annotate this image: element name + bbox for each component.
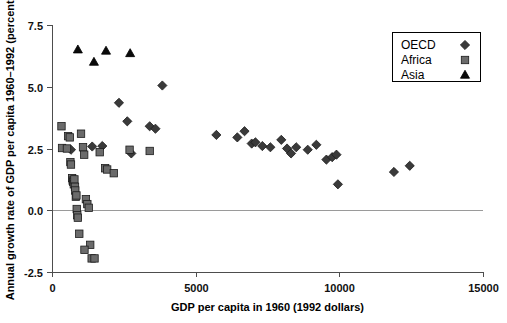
data-point-africa bbox=[74, 214, 81, 221]
data-point-africa bbox=[96, 149, 103, 156]
data-point-oecd bbox=[389, 167, 398, 176]
data-point-oecd bbox=[277, 135, 286, 144]
data-point-africa bbox=[63, 145, 70, 152]
data-point-oecd bbox=[114, 98, 123, 107]
x-tick-label: 15000 bbox=[468, 282, 499, 294]
data-point-asia bbox=[89, 57, 98, 65]
data-point-oecd bbox=[312, 140, 321, 149]
data-point-africa bbox=[66, 134, 73, 141]
data-point-africa bbox=[126, 146, 133, 153]
y-tick-label: 2.5 bbox=[28, 144, 43, 156]
x-tick-label: 10000 bbox=[324, 282, 355, 294]
data-point-oecd bbox=[158, 81, 167, 90]
square-icon bbox=[461, 56, 468, 63]
data-point-africa bbox=[110, 170, 117, 177]
data-point-oecd bbox=[123, 117, 132, 126]
data-point-africa bbox=[81, 246, 88, 253]
legend-label-oecd: OECD bbox=[401, 38, 436, 52]
data-point-africa bbox=[76, 230, 83, 237]
legend-label-africa: Africa bbox=[401, 53, 432, 67]
data-point-asia bbox=[102, 46, 111, 54]
data-point-oecd bbox=[233, 133, 242, 142]
data-point-oecd bbox=[240, 127, 249, 136]
data-point-africa bbox=[91, 255, 98, 262]
y-axis-title: Annual growth rate of GDP per capita 196… bbox=[4, 0, 16, 300]
data-point-asia bbox=[73, 45, 82, 53]
y-tick-label: 5.0 bbox=[28, 82, 43, 94]
data-point-asia bbox=[126, 49, 135, 57]
data-point-africa bbox=[85, 204, 92, 211]
data-point-africa bbox=[58, 123, 65, 130]
data-point-oecd bbox=[88, 142, 97, 151]
y-tick-label: 7.5 bbox=[28, 20, 43, 32]
y-tick-label: 0.0 bbox=[28, 205, 43, 217]
data-point-oecd bbox=[405, 161, 414, 170]
scatter-plot: -2.50.02.55.07.5050001000015000GDP per c… bbox=[0, 0, 507, 323]
data-point-oecd bbox=[212, 130, 221, 139]
data-point-africa bbox=[79, 144, 86, 151]
data-point-africa bbox=[77, 130, 84, 137]
legend-label-asia: Asia bbox=[401, 68, 425, 82]
data-point-oecd bbox=[303, 145, 312, 154]
data-point-africa bbox=[146, 147, 153, 154]
x-axis-title: GDP per capita in 1960 (1992 dollars) bbox=[171, 301, 364, 313]
y-tick-label: -2.5 bbox=[24, 267, 43, 279]
data-point-africa bbox=[71, 176, 78, 183]
data-point-oecd bbox=[266, 143, 275, 152]
data-point-africa bbox=[80, 151, 87, 158]
x-tick-label: 0 bbox=[49, 282, 55, 294]
data-point-oecd bbox=[333, 180, 342, 189]
chart-container: -2.50.02.55.07.5050001000015000GDP per c… bbox=[0, 0, 507, 323]
x-tick-label: 5000 bbox=[184, 282, 208, 294]
data-point-africa bbox=[73, 192, 80, 199]
data-point-africa bbox=[67, 161, 74, 168]
